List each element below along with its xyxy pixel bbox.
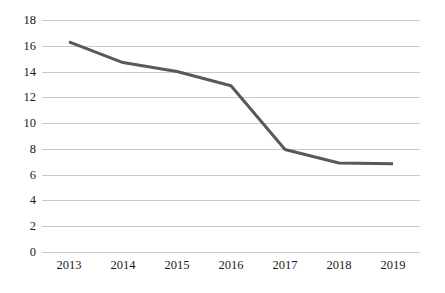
- y-tick-label: 18: [0, 14, 36, 27]
- x-tick-label: 2016: [219, 258, 244, 272]
- y-tick-label: 2: [0, 220, 36, 233]
- x-tick-label: 2015: [165, 258, 190, 272]
- plot-area: [42, 20, 420, 252]
- series-layer: [42, 20, 420, 252]
- gridline: [42, 252, 420, 253]
- line-chart: 024681012141618 201320142015201620172018…: [0, 0, 445, 293]
- y-tick-label: 14: [0, 65, 36, 78]
- y-tick-label: 8: [0, 143, 36, 156]
- series-line: [69, 42, 393, 164]
- y-tick-label: 10: [0, 117, 36, 130]
- y-tick-label: 0: [0, 246, 36, 259]
- y-tick-label: 6: [0, 168, 36, 181]
- x-tick-label: 2017: [273, 258, 298, 272]
- y-axis: 024681012141618: [0, 20, 36, 252]
- y-tick-label: 4: [0, 194, 36, 207]
- x-tick-label: 2014: [111, 258, 136, 272]
- x-axis: 2013201420152016201720182019: [42, 258, 420, 278]
- x-tick-label: 2013: [57, 258, 82, 272]
- y-tick-label: 12: [0, 91, 36, 104]
- y-tick-label: 16: [0, 40, 36, 53]
- x-tick-label: 2019: [381, 258, 406, 272]
- x-tick-label: 2018: [327, 258, 352, 272]
